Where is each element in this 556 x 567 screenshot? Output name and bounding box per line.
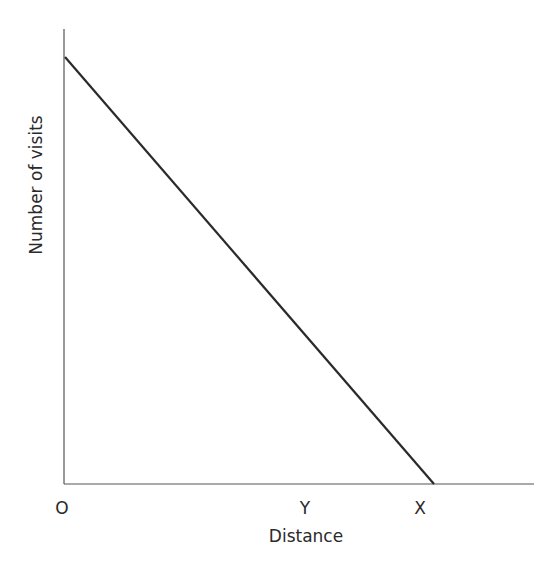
y-point-label: Y [299, 498, 311, 518]
chart: O Y X Distance Number of visits [0, 0, 556, 567]
x-axis-title: Distance [269, 526, 343, 546]
origin-label: O [55, 498, 68, 518]
y-axis-title: Number of visits [26, 115, 46, 255]
visits-line [65, 57, 434, 484]
x-point-label: X [414, 498, 426, 518]
